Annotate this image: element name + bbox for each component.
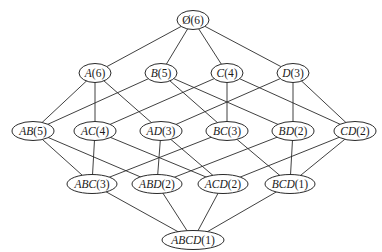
node-label: ABCD(1) xyxy=(170,234,215,247)
support-count: (3) xyxy=(290,67,304,80)
node-label: C(4) xyxy=(216,67,237,80)
itemset-name: BCD xyxy=(272,178,296,190)
node-label: AB(5) xyxy=(18,125,47,138)
itemset-name: BD xyxy=(279,125,295,137)
itemset-name: Ø xyxy=(182,14,190,26)
node-AD: AD(3) xyxy=(140,122,182,141)
support-count: (3) xyxy=(96,178,110,191)
node-ACD: ACD(2) xyxy=(198,175,248,194)
node-BCD: BCD(1) xyxy=(265,175,315,194)
node-label: D(3) xyxy=(281,67,304,80)
support-count: (2) xyxy=(161,178,175,191)
itemset-name: ABC xyxy=(73,178,96,190)
edge-empty-A xyxy=(95,20,193,73)
itemset-name: AB xyxy=(18,125,33,137)
support-count: (3) xyxy=(228,125,242,138)
edge-empty-D xyxy=(193,20,293,73)
support-count: (2) xyxy=(356,125,370,138)
node-CD: CD(2) xyxy=(334,122,376,141)
support-count: (5) xyxy=(158,67,172,80)
node-label: ABC(3) xyxy=(73,178,109,191)
itemset-name: AD xyxy=(146,125,163,137)
nodes-layer: Ø(6)A(6)B(5)C(4)D(3)AB(5)AC(4)AD(3)BC(3)… xyxy=(12,11,376,250)
node-label: CD(2) xyxy=(340,125,370,138)
itemset-name: AC xyxy=(80,125,96,137)
support-count: (6) xyxy=(190,14,204,27)
support-count: (2) xyxy=(294,125,308,138)
support-count: (6) xyxy=(92,67,106,80)
itemset-name: ABCD xyxy=(170,234,202,246)
node-label: BCD(1) xyxy=(272,178,309,191)
node-D: D(3) xyxy=(277,64,309,83)
node-label: AC(4) xyxy=(80,125,109,138)
node-B: B(5) xyxy=(145,64,177,83)
node-label: B(5) xyxy=(151,67,172,80)
node-label: ACD(2) xyxy=(204,178,242,191)
node-label: BC(3) xyxy=(213,125,241,138)
node-A: A(6) xyxy=(79,64,111,83)
support-count: (1) xyxy=(201,234,215,247)
node-label: AD(3) xyxy=(146,125,176,138)
node-BC: BC(3) xyxy=(206,122,248,141)
support-count: (3) xyxy=(162,125,176,138)
itemset-lattice-diagram: Ø(6)A(6)B(5)C(4)D(3)AB(5)AC(4)AD(3)BC(3)… xyxy=(0,0,382,252)
support-count: (2) xyxy=(228,178,242,191)
itemset-name: ACD xyxy=(204,178,229,190)
support-count: (1) xyxy=(295,178,309,191)
itemset-name: CD xyxy=(340,125,357,137)
node-C: C(4) xyxy=(211,64,243,83)
node-AC: AC(4) xyxy=(74,122,116,141)
node-ABC: ABC(3) xyxy=(67,175,117,194)
support-count: (4) xyxy=(224,67,238,80)
node-empty: Ø(6) xyxy=(177,11,209,30)
itemset-name: BC xyxy=(213,125,228,137)
support-count: (5) xyxy=(33,125,47,138)
support-count: (4) xyxy=(96,125,110,138)
itemset-name: ABD xyxy=(138,178,162,190)
node-BD: BD(2) xyxy=(272,122,314,141)
node-label: BD(2) xyxy=(279,125,308,138)
node-ABD: ABD(2) xyxy=(132,175,182,194)
node-label: ABD(2) xyxy=(138,178,175,191)
node-ABCD: ABCD(1) xyxy=(162,231,224,250)
node-label: A(6) xyxy=(84,67,106,80)
node-label: Ø(6) xyxy=(182,14,204,27)
itemset-name: B xyxy=(151,67,158,79)
node-AB: AB(5) xyxy=(12,122,54,141)
